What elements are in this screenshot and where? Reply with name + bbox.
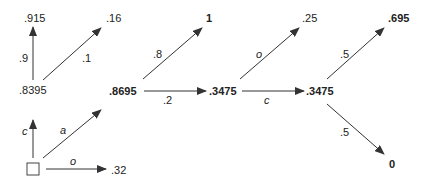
edge-label-9: .9 [19, 52, 28, 64]
edge-label-a: a [60, 124, 66, 136]
node-16: .16 [106, 12, 121, 24]
node-3475-a: .3475 [209, 85, 237, 97]
edge-label-8: .8 [153, 48, 162, 60]
node-1: 1 [206, 12, 212, 24]
edge-label-c-mid: c [264, 94, 270, 106]
node-8395: .8395 [19, 84, 47, 96]
start-square-icon [27, 163, 39, 175]
edge-label-c-start: c [22, 125, 28, 137]
node-695: .695 [388, 12, 409, 24]
node-0: 0 [389, 158, 395, 170]
node-8695: .8695 [109, 85, 137, 97]
edge-label-o-mid: o [256, 48, 262, 60]
node-3475-b: .3475 [306, 85, 334, 97]
edge-label-5-up: .5 [340, 48, 349, 60]
edge-label-5-down: .5 [340, 126, 349, 138]
node-915: .915 [24, 12, 45, 24]
node-32: .32 [111, 164, 126, 176]
edge-label-1: .1 [82, 52, 91, 64]
edge-label-o-start: o [70, 155, 76, 167]
node-25: .25 [302, 12, 317, 24]
edge-label-2: .2 [163, 94, 172, 106]
